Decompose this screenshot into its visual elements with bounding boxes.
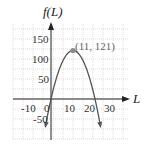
vertex-label: (11, 121)	[75, 40, 115, 53]
y-tick-label: 50	[38, 73, 50, 85]
x-tick-label: 10	[64, 102, 76, 114]
y-axis-title: f(L)	[43, 4, 63, 19]
x-tick-label: 20	[84, 102, 96, 114]
x-axis-title: L	[132, 91, 140, 106]
x-axis-arrow-icon	[122, 96, 130, 102]
curve	[44, 48, 102, 128]
tick-labels: -10 0 10 20 30 150 100 50 -50 f(L) L (11…	[21, 4, 140, 125]
y-tick-label: -50	[33, 113, 48, 125]
parabola-chart: -10 0 10 20 30 150 100 50 -50 f(L) L (11…	[0, 0, 145, 145]
y-tick-label: 100	[32, 53, 49, 65]
x-tick-label: 30	[104, 102, 116, 114]
curve-arrow-right-icon	[97, 122, 102, 128]
y-tick-label: 150	[32, 33, 49, 45]
